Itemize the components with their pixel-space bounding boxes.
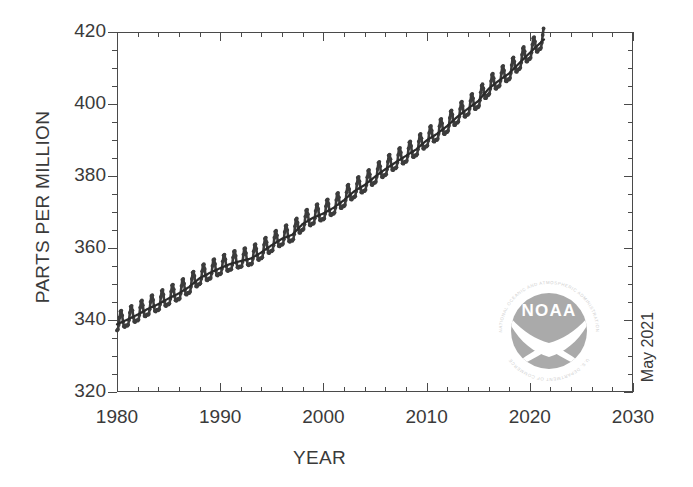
x-tick-top-2022 — [550, 32, 551, 37]
y-tick-label-420: 420 — [48, 20, 106, 42]
x-tick-top-2012 — [447, 32, 448, 37]
chart-figure: PARTS PER MILLION YEAR 32034036038040042… — [0, 0, 693, 487]
x-tick-top-2020 — [530, 32, 531, 41]
x-tick-1990 — [220, 383, 221, 392]
x-tick-1980 — [117, 383, 118, 392]
x-tick-top-2026 — [592, 32, 593, 37]
x-tick-top-2006 — [385, 32, 386, 37]
data-point — [542, 27, 546, 31]
y-tick-right-335 — [628, 338, 633, 339]
y-tick-380 — [108, 176, 117, 177]
x-tick-label-1980: 1980 — [81, 406, 153, 428]
x-tick-top-1984 — [158, 32, 159, 37]
y-tick-right-325 — [628, 374, 633, 375]
y-tick-right-385 — [628, 158, 633, 159]
x-tick-1986 — [179, 387, 180, 392]
x-tick-top-1986 — [179, 32, 180, 37]
y-tick-label-320: 320 — [48, 380, 106, 402]
y-tick-355 — [112, 266, 117, 267]
y-tick-right-320 — [624, 392, 633, 393]
y-tick-right-365 — [628, 230, 633, 231]
x-tick-top-1990 — [220, 32, 221, 41]
y-tick-right-415 — [628, 50, 633, 51]
y-tick-350 — [112, 284, 117, 285]
x-tick-top-1994 — [261, 32, 262, 37]
y-tick-right-410 — [628, 68, 633, 69]
x-tick-top-1980 — [117, 32, 118, 41]
x-tick-1984 — [158, 387, 159, 392]
x-tick-label-2020: 2020 — [494, 406, 566, 428]
x-tick-top-2028 — [612, 32, 613, 37]
x-tick-2004 — [365, 387, 366, 392]
x-tick-top-2004 — [365, 32, 366, 37]
y-tick-330 — [112, 356, 117, 357]
x-tick-label-1990: 1990 — [184, 406, 256, 428]
x-tick-2006 — [385, 387, 386, 392]
y-tick-right-360 — [624, 248, 633, 249]
y-axis-title: PARTS PER MILLION — [32, 92, 54, 322]
y-tick-right-370 — [628, 212, 633, 213]
y-tick-right-355 — [628, 266, 633, 267]
x-tick-label-2000: 2000 — [287, 406, 359, 428]
y-tick-400 — [108, 104, 117, 105]
x-tick-1998 — [303, 387, 304, 392]
y-tick-340 — [108, 320, 117, 321]
x-tick-2008 — [406, 387, 407, 392]
y-tick-right-340 — [624, 320, 633, 321]
x-tick-top-2000 — [323, 32, 324, 41]
y-tick-right-375 — [628, 194, 633, 195]
x-tick-top-1982 — [138, 32, 139, 37]
y-tick-right-405 — [628, 86, 633, 87]
y-tick-label-360: 360 — [48, 236, 106, 258]
x-tick-top-2008 — [406, 32, 407, 37]
x-tick-2012 — [447, 387, 448, 392]
x-tick-top-2002 — [344, 32, 345, 37]
y-tick-right-395 — [628, 122, 633, 123]
y-tick-375 — [112, 194, 117, 195]
x-axis-title: YEAR — [293, 447, 346, 469]
x-tick-top-2014 — [468, 32, 469, 37]
y-tick-right-400 — [624, 104, 633, 105]
y-tick-right-420 — [624, 32, 633, 33]
x-tick-1994 — [261, 387, 262, 392]
x-tick-top-2024 — [571, 32, 572, 37]
x-tick-top-2010 — [427, 32, 428, 41]
y-tick-label-380: 380 — [48, 164, 106, 186]
y-tick-right-380 — [624, 176, 633, 177]
y-tick-365 — [112, 230, 117, 231]
date-stamp: May 2021 — [636, 300, 660, 400]
x-tick-top-1988 — [200, 32, 201, 37]
x-tick-2030 — [633, 383, 634, 392]
y-tick-right-345 — [628, 302, 633, 303]
x-tick-top-2018 — [509, 32, 510, 37]
logo-wordmark: NOAA — [522, 301, 577, 320]
x-tick-1996 — [282, 387, 283, 392]
x-tick-2010 — [427, 383, 428, 392]
y-tick-420 — [108, 32, 117, 33]
noaa-logo: NOAA NATIONAL OCEANIC AND ATMOSPHERIC AD… — [489, 271, 609, 391]
y-tick-label-400: 400 — [48, 92, 106, 114]
x-tick-label-2010: 2010 — [391, 406, 463, 428]
y-tick-410 — [112, 68, 117, 69]
y-tick-390 — [112, 140, 117, 141]
x-tick-1992 — [241, 387, 242, 392]
y-tick-385 — [112, 158, 117, 159]
x-tick-2000 — [323, 383, 324, 392]
y-tick-right-330 — [628, 356, 633, 357]
x-tick-top-1996 — [282, 32, 283, 37]
y-tick-370 — [112, 212, 117, 213]
x-tick-label-2030: 2030 — [597, 406, 669, 428]
x-tick-1982 — [138, 387, 139, 392]
y-tick-320 — [108, 392, 117, 393]
y-tick-label-340: 340 — [48, 308, 106, 330]
x-tick-top-2016 — [489, 32, 490, 37]
date-stamp-text: May 2021 — [639, 297, 657, 397]
y-tick-right-390 — [628, 140, 633, 141]
x-tick-2002 — [344, 387, 345, 392]
y-tick-415 — [112, 50, 117, 51]
x-tick-top-1992 — [241, 32, 242, 37]
x-tick-top-2030 — [633, 32, 634, 41]
y-tick-405 — [112, 86, 117, 87]
y-tick-360 — [108, 248, 117, 249]
x-tick-top-1998 — [303, 32, 304, 37]
